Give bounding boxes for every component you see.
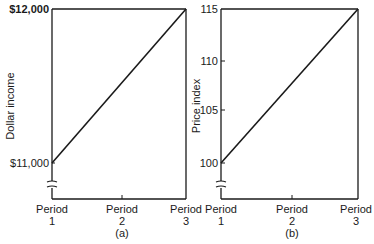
chart-b-y-axis-label: Price index [190,78,202,133]
chart-b-x-tick-label: Period [340,203,372,215]
chart-b-y-tick-label: 115 [200,3,218,15]
chart-b-axis-break-icon [216,186,226,187]
chart-a-x-tick-label: Period [170,203,202,215]
chart-b-x-tick-number: 1 [218,215,224,227]
chart-b-x-tick-label: Period [276,203,308,215]
chart-b-panel-label: (b) [285,227,298,239]
chart-a-panel-label: (a) [115,227,128,239]
chart-b-y-tick-label: 100 [200,157,218,169]
chart-a-x-tick-label: Period [36,203,68,215]
chart-a-series-line [52,9,186,163]
chart-a-x-tick-label: Period [106,203,138,215]
chart-a-x-tick-number: 2 [119,215,125,227]
chart-b-y-tick-label: 105 [200,104,218,116]
chart-a-axis-break-icon [47,181,57,182]
chart-a-axis-break-icon [47,186,57,187]
chart-a: $12,000 $11,000 Dollar income Period 1 P… [4,3,202,239]
chart-a-y-tick-label: $11,000 [10,157,49,169]
chart-a-y-axis-label: Dollar income [4,72,16,139]
chart-b-x-tick-number: 2 [289,215,295,227]
chart-b: 100 105 110 115 Price index Period 1 Per… [190,3,372,239]
chart-a-x-tick-number: 1 [49,215,55,227]
chart-b-series-line [221,9,358,163]
chart-a-y-tick-label: $12,000 [9,3,49,15]
figure: $12,000 $11,000 Dollar income Period 1 P… [0,0,374,244]
chart-b-axis-break-icon [216,181,226,182]
chart-b-y-tick-label: 110 [200,55,218,67]
chart-a-x-tick-number: 3 [183,215,189,227]
chart-b-x-tick-label: Period [205,203,237,215]
chart-b-x-tick-number: 3 [353,215,359,227]
